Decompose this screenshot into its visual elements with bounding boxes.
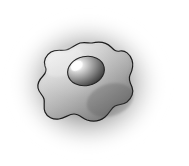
cell-group [38,41,138,123]
cell-illustration [0,0,189,166]
figure-canvas: Amoeba-like cell illustration Grayscale … [0,0,189,166]
